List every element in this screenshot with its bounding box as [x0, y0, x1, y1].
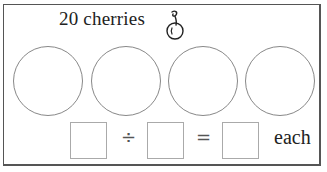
each-label: each	[274, 126, 311, 149]
group-circle-4[interactable]	[245, 46, 315, 116]
group-circle-3[interactable]	[168, 46, 238, 116]
quotient-input-box[interactable]	[222, 122, 259, 159]
divisor-input-box[interactable]	[147, 122, 184, 159]
cherry-icon	[163, 9, 187, 41]
dividend-input-box[interactable]	[70, 122, 107, 159]
problem-title: 20 cherries	[59, 8, 145, 30]
group-circle-1[interactable]	[13, 46, 83, 116]
equals-symbol: =	[196, 126, 211, 147]
divide-symbol: ÷	[121, 126, 136, 147]
group-circle-2[interactable]	[91, 46, 161, 116]
